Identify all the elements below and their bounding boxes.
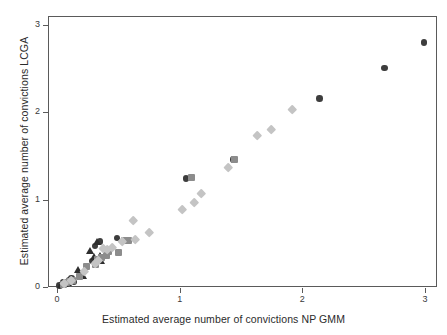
x-axis-tick	[180, 288, 181, 293]
y-axis-tick	[43, 200, 48, 201]
y-axis-tick	[43, 25, 48, 26]
y-axis-title: Estimated average number of convictions …	[18, 1, 30, 301]
x-axis-tick	[425, 288, 426, 293]
scatter-plot-figure: 01230123 Estimated average number of con…	[0, 0, 447, 335]
x-axis-tick	[302, 288, 303, 293]
y-axis-tick	[43, 287, 48, 288]
x-axis-tick-label: 0	[47, 294, 67, 304]
x-axis-tick-label: 3	[415, 294, 435, 304]
x-axis-tick-label: 1	[170, 294, 190, 304]
x-axis-tick	[57, 288, 58, 293]
plot-area-frame	[48, 16, 437, 287]
x-axis-tick-label: 2	[292, 294, 312, 304]
y-axis-tick	[43, 112, 48, 113]
x-axis-title: Estimated average number of convictions …	[0, 313, 447, 325]
